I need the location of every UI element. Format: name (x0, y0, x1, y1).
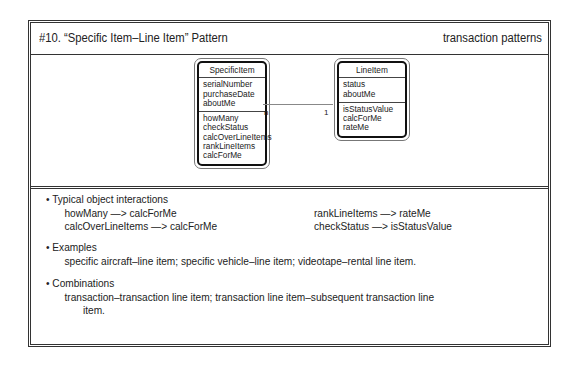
interaction-item: howMany —> calcForMe (46, 207, 177, 221)
attribute: aboutMe (203, 99, 261, 108)
pattern-notes: • Typical object interactions howMany —>… (31, 189, 548, 344)
combinations-text-cont: item. (46, 304, 468, 318)
class-name: LineItem (339, 63, 405, 78)
class-specific-item: SpecificItem serialNumber purchaseDate a… (194, 58, 270, 169)
combinations-text: transaction–transaction line item; trans… (46, 291, 468, 305)
pattern-title: #10. “Specific Item–Line Item” Pattern (39, 31, 228, 45)
card-header: #10. “Specific Item–Line Item” Pattern t… (31, 23, 548, 55)
interactions-heading: • Typical object interactions (46, 193, 468, 207)
service: rateMe (343, 123, 401, 132)
multiplicity-n: n (264, 108, 268, 117)
examples-section: • Examples specific aircraft–line item; … (46, 241, 526, 268)
class-services: howMany checkStatus calcOverLineItems ra… (199, 111, 265, 163)
examples-heading: • Examples (46, 241, 468, 255)
service: calcForMe (203, 151, 261, 160)
interaction-item: checkStatus —> isStatusValue (314, 220, 452, 234)
class-attributes: serialNumber purchaseDate aboutMe (199, 78, 265, 111)
multiplicity-1: 1 (324, 108, 328, 117)
pattern-card: #10. “Specific Item–Line Item” Pattern t… (28, 20, 551, 347)
combinations-heading: • Combinations (46, 277, 468, 291)
examples-text: specific aircraft–line item; specific ve… (46, 255, 468, 269)
interaction-item: rankLineItems —> rateMe (314, 207, 431, 221)
class-attributes: status aboutMe (339, 78, 405, 102)
pattern-category: transaction patterns (443, 31, 542, 45)
combinations-section: • Combinations transaction–transaction l… (46, 277, 526, 318)
attribute: aboutMe (343, 90, 401, 99)
class-services: isStatusValue calcForMe rateMe (339, 102, 405, 136)
association-line (263, 104, 333, 105)
class-name: SpecificItem (199, 63, 265, 78)
class-diagram: SpecificItem serialNumber purchaseDate a… (31, 55, 548, 189)
class-line-item: LineItem status aboutMe isStatusValue ca… (334, 58, 410, 141)
interaction-item: calcOverLineItems —> calcForMe (46, 220, 217, 234)
interactions-section: • Typical object interactions howMany —>… (46, 193, 526, 235)
